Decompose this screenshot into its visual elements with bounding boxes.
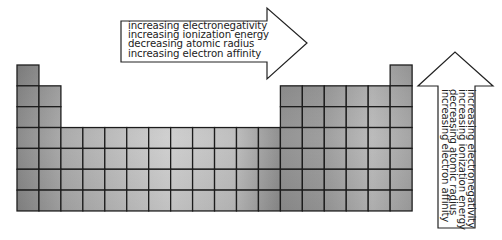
arrow-up-text: increasing electronegativity increasing … (440, 89, 475, 230)
arrow-up (0, 0, 502, 240)
periodic-trends-diagram: increasing electronegativity increasing … (0, 0, 502, 240)
trend-line-electron-affinity-vertical: increasing electron affinity (440, 89, 449, 230)
